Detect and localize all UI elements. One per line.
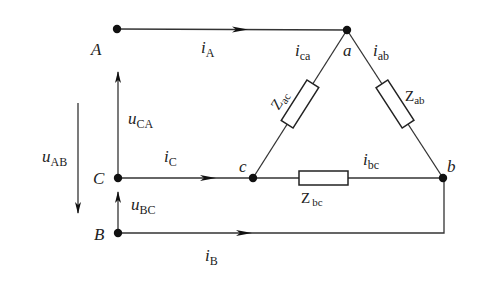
label-node-A: A — [90, 40, 102, 59]
node-c — [249, 174, 257, 182]
delta-circuit-diagram: A C B a c b iA iC iB ica iab ibc uCA uBC… — [0, 0, 487, 284]
node-C — [114, 174, 122, 182]
label-ica: ica — [295, 41, 311, 63]
label-uCA: uCA — [128, 109, 154, 131]
impedance-Zbc — [299, 171, 348, 185]
label-node-C: C — [93, 169, 105, 188]
line-C-wire — [118, 175, 253, 181]
node-b — [439, 174, 447, 182]
label-uBC: uBC — [131, 195, 156, 217]
label-ibc: ibc — [363, 150, 379, 172]
label-iB: iB — [205, 246, 218, 268]
label-node-a: a — [343, 41, 352, 60]
node-B — [114, 229, 122, 237]
label-iA: iA — [201, 38, 215, 60]
branch-cb — [253, 171, 443, 185]
label-node-b: b — [447, 157, 456, 176]
node-a — [343, 26, 351, 34]
label-node-c: c — [239, 157, 247, 176]
label-Zbc: Zbc — [301, 190, 323, 208]
node-A — [113, 25, 121, 33]
label-node-B: B — [94, 225, 105, 244]
label-iab: iab — [373, 41, 389, 63]
line-A-wire — [117, 27, 347, 33]
label-uAB: uAB — [42, 147, 67, 169]
label-Zab: Zab — [405, 88, 425, 106]
branch-ab — [347, 30, 443, 178]
label-iC: iC — [164, 147, 177, 169]
line-B-wire — [118, 178, 444, 236]
